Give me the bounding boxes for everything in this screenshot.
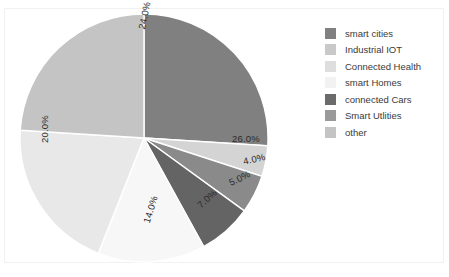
slice-label-20: 20.0% <box>39 115 50 143</box>
pie-slices-exact <box>20 14 268 262</box>
legend-swatch-icon <box>325 94 336 105</box>
legend-swatch-icon <box>325 77 336 88</box>
legend-item-connected-cars[interactable]: connected Cars <box>325 91 440 108</box>
legend-item-label: Smart Utlities <box>345 111 401 121</box>
legend-item-connected-health[interactable]: Connected Health <box>325 58 440 75</box>
legend-item-label: smart Homes <box>345 78 401 88</box>
pie-slice-smart-cities[interactable] <box>144 14 268 146</box>
legend-item-label: Industrial IOT <box>345 45 402 55</box>
legend-item-smart-homes[interactable]: smart Homes <box>325 75 440 92</box>
legend-item-industrial-iot[interactable]: Industrial IOT <box>325 42 440 59</box>
legend-swatch-icon <box>325 28 336 39</box>
legend-item-label: other <box>345 128 367 138</box>
legend-swatch-icon <box>325 61 336 72</box>
legend-item-smart-cities[interactable]: smart cities <box>325 25 440 42</box>
legend-swatch-icon <box>325 110 336 121</box>
chart-figure: 26.0% 4.0% 5.0% 7.0% 14.0% 20.0% 24.0% s… <box>0 0 449 277</box>
slice-label-26: 26.0% <box>232 133 260 144</box>
legend-swatch-icon <box>325 127 336 138</box>
legend-item-other[interactable]: other <box>325 124 440 141</box>
legend-swatch-icon <box>325 44 336 55</box>
pie-chart: 26.0% 4.0% 5.0% 7.0% 14.0% 20.0% 24.0% <box>18 12 270 264</box>
legend-item-label: smart cities <box>345 29 393 39</box>
legend-item-label: Connected Health <box>345 62 421 72</box>
chart-legend: smart cities Industrial IOT Connected He… <box>325 25 440 141</box>
legend-item-smart-utilities[interactable]: Smart Utlities <box>325 108 440 125</box>
legend-item-label: connected Cars <box>345 95 412 105</box>
